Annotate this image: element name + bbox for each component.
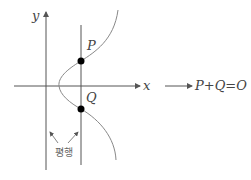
result-equation: P+Q=O: [194, 78, 247, 93]
parallel-arrow-right: [68, 132, 78, 143]
point-p: [78, 58, 85, 65]
point-p-label: P: [86, 38, 96, 53]
y-axis-label: y: [31, 8, 40, 23]
point-q: [78, 106, 85, 113]
parallel-annotation: 평행: [55, 147, 73, 158]
elliptic-curve-diagram: y x P Q 평행 P+Q=O: [0, 0, 251, 180]
point-q-label: Q: [86, 90, 97, 105]
x-axis-label: x: [143, 78, 151, 93]
parallel-arrow-left: [50, 132, 58, 143]
elliptic-curve: [59, 10, 118, 160]
